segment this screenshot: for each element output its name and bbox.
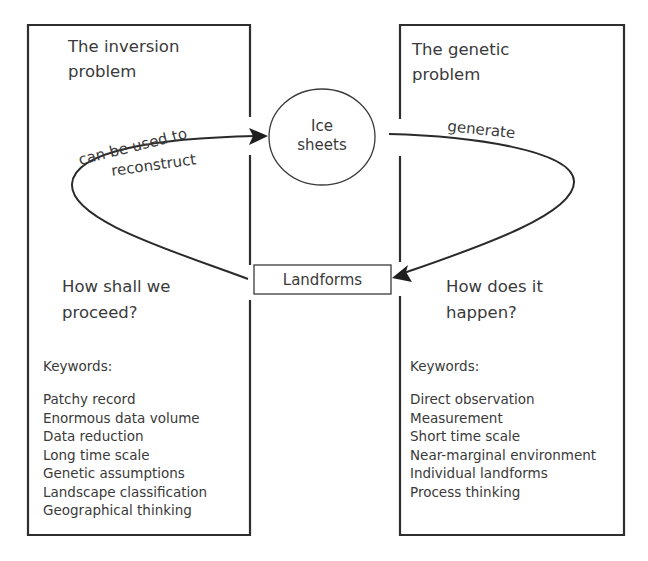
generate-curve — [389, 134, 574, 273]
left-panel-question-line-2: proceed? — [62, 303, 138, 322]
left-keyword-item: Long time scale — [43, 447, 150, 463]
left-panel-title-line-2: problem — [68, 62, 136, 81]
right-keyword-item: Near-marginal environment — [410, 447, 596, 463]
right-keyword-item: Individual landforms — [410, 465, 548, 481]
left-keyword-item: Patchy record — [43, 391, 135, 407]
right-panel-question-line-2: happen? — [446, 303, 517, 322]
left-keyword-item: Genetic assumptions — [43, 465, 185, 481]
left-keyword-item: Landscape classification — [43, 484, 207, 500]
left-panel-keywords-label: Keywords: — [43, 358, 112, 374]
right-keyword-item: Measurement — [410, 410, 503, 426]
generate-edge: generate — [389, 117, 574, 282]
landforms-node: Landforms — [254, 265, 391, 294]
ice-sheets-label-line-2: sheets — [297, 136, 347, 154]
left-keyword-item: Enormous data volume — [43, 410, 200, 426]
landforms-label: Landforms — [283, 271, 363, 289]
diagram-canvas: The inversion problem How shall we proce… — [0, 0, 648, 561]
arrow-left-icon — [392, 265, 412, 282]
right-keyword-item: Short time scale — [410, 428, 520, 444]
right-keyword-item: Process thinking — [410, 484, 520, 500]
left-panel-question-line-1: How shall we — [62, 277, 170, 296]
right-panel: The genetic problem How does it happen? … — [400, 25, 624, 535]
left-keyword-item: Data reduction — [43, 428, 144, 444]
reconstruct-edge: can be used to reconstruct — [72, 125, 268, 279]
right-panel-title-line-1: The genetic — [411, 40, 509, 59]
ice-sheets-label-line-1: Ice — [311, 117, 333, 135]
right-panel-keywords-label: Keywords: — [410, 358, 479, 374]
left-panel: The inversion problem How shall we proce… — [28, 25, 250, 535]
right-panel-question-line-1: How does it — [446, 277, 543, 296]
left-keyword-item: Geographical thinking — [43, 502, 192, 518]
right-panel-title-line-2: problem — [412, 65, 480, 84]
left-panel-title-line-1: The inversion — [67, 37, 179, 56]
ice-sheets-node: Ice sheets — [269, 89, 375, 185]
right-keyword-item: Direct observation — [410, 391, 535, 407]
